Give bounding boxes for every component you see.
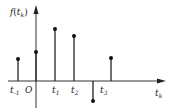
stem-dot	[109, 56, 113, 60]
tick-label-t3: t3	[100, 85, 108, 96]
x-axis-label: tk	[155, 88, 163, 99]
tick-label-t2: t2	[71, 85, 79, 96]
stem-dot	[16, 57, 20, 61]
tick-label-t1: t1	[52, 85, 59, 96]
x-axis-arrow-icon	[157, 79, 166, 84]
stem-dot	[72, 34, 76, 38]
tick-label-t-minus-1: t-1	[10, 85, 19, 96]
stem-dot	[53, 27, 57, 31]
y-axis-label: f(tk)	[9, 7, 28, 18]
discrete-function-diagram: f(tk) tk O t-1 t1 t2 t3	[0, 0, 171, 112]
stem-dot	[91, 99, 95, 103]
origin-label: O	[25, 85, 33, 95]
y-axis-arrow-icon	[34, 5, 39, 14]
stem-dot	[34, 50, 38, 54]
